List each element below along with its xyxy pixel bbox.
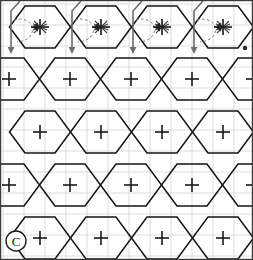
star-marker-icon bbox=[92, 19, 110, 35]
copyright-letter: C bbox=[12, 234, 21, 249]
star-marker-icon bbox=[214, 19, 232, 35]
vertex-endpoint-dot bbox=[243, 46, 247, 50]
hexagon-tessellation-figure: C bbox=[0, 0, 253, 260]
figure-canvas: C bbox=[0, 0, 253, 260]
star-marker-icon bbox=[31, 19, 49, 35]
star-marker-icon bbox=[153, 19, 171, 35]
copyright-layer: C bbox=[6, 231, 26, 251]
